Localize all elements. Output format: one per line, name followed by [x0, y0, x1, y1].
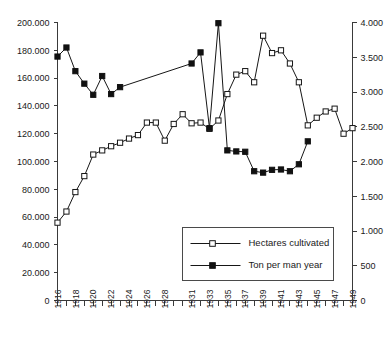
open-square-marker: [144, 120, 149, 125]
open-square-marker: [126, 136, 131, 141]
filled-square-marker: [216, 21, 221, 26]
y-axis-left-tick-label: 160.000: [17, 73, 50, 83]
filled-square-marker: [278, 167, 283, 172]
filled-square-marker: [252, 169, 257, 174]
open-square-marker: [55, 220, 60, 225]
filled-square-marker: [287, 169, 292, 174]
legend-item-label: Hectares cultivated: [249, 237, 330, 248]
y-axis-left-tick-label: 80.000: [22, 185, 50, 195]
line-chart: 020.00040.00060.00080.000100.000120.0001…: [0, 0, 391, 345]
filled-square-marker: [305, 139, 310, 144]
y-axis-right-tick-label: 4.000: [361, 18, 384, 28]
open-square-marker: [64, 209, 69, 214]
y-axis-left-tick-label: 140.000: [17, 101, 50, 111]
x-axis-tick-label: 1935: [223, 289, 233, 308]
x-axis-tick-label: 1920: [88, 289, 98, 308]
legend-border-box: [183, 228, 334, 281]
x-axis-tick-label: 1945: [312, 289, 322, 308]
filled-square-marker: [269, 167, 274, 172]
filled-square-marker: [73, 69, 78, 74]
x-axis-tick-label: 1941: [276, 289, 286, 308]
filled-square-marker: [296, 162, 301, 167]
open-square-marker: [100, 148, 105, 153]
y-axis-right-tick-label: 2.500: [361, 122, 384, 132]
filled-square-marker: [189, 61, 194, 66]
open-square-marker: [314, 115, 319, 120]
y-axis-left-tick-label: 120.000: [17, 129, 50, 139]
chart-legend: Hectares cultivatedTon per man year: [183, 228, 334, 281]
open-square-marker: [153, 120, 158, 125]
filled-square-marker: [198, 50, 203, 55]
filled-square-marker: [234, 149, 239, 154]
open-square-marker: [225, 91, 230, 96]
filled-square-marker: [225, 148, 230, 153]
open-square-marker: [305, 123, 310, 128]
filled-square-marker: [109, 91, 114, 96]
open-square-marker: [162, 138, 167, 143]
y-axis-right-tick-label: 500: [361, 261, 376, 271]
open-square-marker: [117, 140, 122, 145]
filled-square-marker: [117, 85, 122, 90]
open-square-marker: [171, 121, 176, 126]
x-axis-tick-label: 1928: [160, 289, 170, 308]
legend-open-square-marker: [210, 241, 216, 247]
y-axis-right-tick-label: 2.000: [361, 157, 384, 167]
open-square-marker: [216, 118, 221, 123]
filled-square-marker: [100, 73, 105, 78]
y-axis-left-tick-label: 40.000: [22, 240, 50, 250]
y-axis-left-tick-label: 180.000: [17, 46, 50, 56]
open-square-marker: [135, 132, 140, 137]
open-square-marker: [278, 48, 283, 53]
open-square-marker: [234, 72, 239, 77]
y-axis-right-tick-label: 3.000: [361, 87, 384, 97]
open-square-marker: [261, 33, 266, 38]
x-axis-tick-label: 1933: [205, 289, 215, 308]
filled-square-marker: [64, 45, 69, 50]
x-axis-tick-label: 1937: [240, 289, 250, 308]
open-square-marker: [82, 174, 87, 179]
open-square-marker: [189, 121, 194, 126]
x-axis-tick-label: 1939: [258, 289, 268, 308]
y-axis-left-tick-label: 60.000: [22, 212, 50, 222]
x-axis-tick-label: 1922: [106, 289, 116, 308]
y-axis-left-tick-label: 0: [44, 296, 49, 306]
open-square-marker: [180, 112, 185, 117]
y-axis-right-tick-label: 1.000: [361, 226, 384, 236]
y-axis-right-tick-label: 1.500: [361, 192, 384, 202]
x-axis-tick-label: 1924: [124, 289, 134, 308]
open-square-marker: [269, 50, 274, 55]
open-square-marker: [252, 80, 257, 85]
chart-container: 020.00040.00060.00080.000100.000120.0001…: [0, 0, 391, 345]
x-axis-tick-label: 1947: [330, 289, 340, 308]
x-axis-tick-label: 1931: [187, 289, 197, 308]
x-axis-tick-label: 1943: [294, 289, 304, 308]
open-square-marker: [73, 189, 78, 194]
open-square-marker: [198, 120, 203, 125]
open-square-marker: [323, 109, 328, 114]
y-axis-left-tick-label: 100.000: [17, 157, 50, 167]
filled-square-marker: [243, 149, 248, 154]
open-square-marker: [243, 69, 248, 74]
y-axis-right-tick-label: 3.500: [361, 53, 384, 63]
open-square-marker: [296, 80, 301, 85]
x-axis-tick-label: 1926: [142, 289, 152, 308]
open-square-marker: [332, 106, 337, 111]
filled-square-marker: [55, 54, 60, 59]
filled-square-marker: [207, 126, 212, 131]
y-axis-left-tick-label: 200.000: [17, 18, 50, 28]
y-axis-right-tick-label: 0: [361, 296, 366, 306]
filled-square-marker: [261, 170, 266, 175]
x-axis-labels: 1916191819201922192419261928193119331935…: [53, 289, 358, 308]
x-axis-tick-label: 1918: [71, 289, 81, 308]
open-square-marker: [91, 152, 96, 157]
open-square-marker: [109, 144, 114, 149]
y-axis-left-tick-label: 20.000: [22, 268, 50, 278]
open-square-marker: [287, 61, 292, 66]
open-square-marker: [341, 131, 346, 136]
open-square-marker: [350, 126, 355, 131]
filled-square-marker: [82, 81, 87, 86]
legend-filled-square-marker: [210, 263, 216, 269]
legend-item-label: Ton per man year: [249, 259, 323, 270]
filled-square-marker: [91, 92, 96, 97]
